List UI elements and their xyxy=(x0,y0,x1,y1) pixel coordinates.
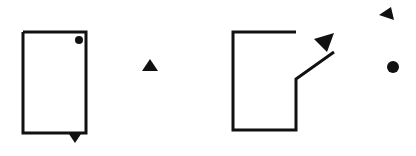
left-dot-icon xyxy=(75,36,83,44)
right-figure xyxy=(233,32,334,130)
far-right-dot-icon xyxy=(387,61,399,73)
left-triangle-down-icon xyxy=(69,134,81,143)
diagram-canvas xyxy=(0,0,416,156)
right-triangle-icon xyxy=(314,33,334,52)
middle-triangle-up-icon xyxy=(142,59,158,71)
left-rectangle-outline xyxy=(23,32,86,133)
left-figure xyxy=(23,32,86,143)
middle-marker xyxy=(142,59,158,71)
diagram-svg xyxy=(0,0,416,156)
right-bent-outline xyxy=(233,32,334,130)
far-right-markers xyxy=(379,7,399,73)
far-right-triangle-icon xyxy=(379,7,394,20)
